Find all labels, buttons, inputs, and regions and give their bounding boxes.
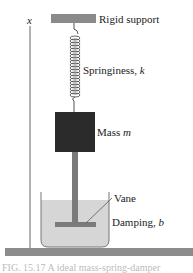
vane-label: Vane (114, 193, 136, 204)
rigid-support-bar (51, 14, 96, 23)
damper-rod (72, 152, 78, 222)
mass-var: m (123, 126, 131, 138)
mass-block (55, 112, 95, 152)
damping-var: b (158, 216, 164, 228)
x-axis-label: x (27, 15, 32, 26)
mass-label: Mass m (97, 127, 131, 138)
vane (55, 222, 96, 227)
ground (5, 248, 193, 256)
springiness-text: Springiness, (83, 64, 140, 76)
rigid-support-label: Rigid support (99, 14, 159, 25)
damping-text: Damping, (112, 216, 158, 228)
spring-coil (70, 36, 80, 97)
damping-label: Damping, b (112, 217, 164, 228)
mass-text: Mass (97, 126, 123, 138)
springiness-var: k (140, 64, 145, 76)
figure-caption: FIG. 15.17 A ideal mass-spring-damper (2, 262, 160, 273)
springiness-label: Springiness, k (83, 65, 145, 76)
